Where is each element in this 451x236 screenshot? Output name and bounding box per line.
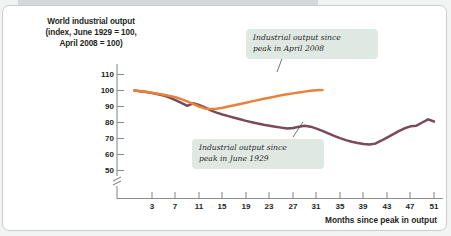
series-lines — [134, 90, 434, 145]
x-axis-title: Months since peak in output — [325, 215, 437, 225]
y-tick-label-70: 70 — [88, 134, 114, 143]
annotation-2008-line-1: Industrial output since — [253, 33, 371, 44]
y-tick-label-50: 50 — [88, 166, 114, 175]
x-tick-label-35: 35 — [330, 202, 350, 211]
annotation-note-2008: Industrial output since peak in April 20… — [246, 29, 378, 59]
annotation-1929-line-1: Industrial output since — [199, 143, 317, 154]
x-tick-marks — [152, 192, 434, 198]
x-tick-label-43: 43 — [377, 202, 397, 211]
y-tick-label-100: 100 — [88, 86, 114, 95]
y-tick-label-60: 60 — [88, 150, 114, 159]
x-tick-label-11: 11 — [189, 202, 209, 211]
annotation-note-1929: Industrial output since peak in June 192… — [192, 139, 324, 169]
x-tick-label-27: 27 — [283, 202, 303, 211]
axes — [113, 64, 443, 199]
x-tick-label-31: 31 — [306, 202, 326, 211]
annotation-2008-line-2: peak in April 2008 — [253, 44, 371, 55]
x-tick-label-23: 23 — [259, 202, 279, 211]
x-tick-label-3: 3 — [142, 202, 162, 211]
y-tick-label-80: 80 — [88, 118, 114, 127]
x-tick-label-47: 47 — [400, 202, 420, 211]
y-tick-marks — [117, 75, 124, 171]
plot-area — [0, 0, 451, 236]
x-tick-label-39: 39 — [353, 202, 373, 211]
x-tick-label-15: 15 — [212, 202, 232, 211]
y-tick-label-90: 90 — [88, 102, 114, 111]
annotation-1929-line-2: peak in June 1929 — [199, 154, 317, 165]
y-tick-label-110: 110 — [88, 70, 114, 79]
x-tick-label-7: 7 — [165, 202, 185, 211]
series-line-2008 — [134, 90, 322, 109]
chart-screenshot: World industrial output (index, June 192… — [0, 0, 451, 236]
x-tick-label-51: 51 — [424, 202, 444, 211]
x-tick-label-19: 19 — [236, 202, 256, 211]
